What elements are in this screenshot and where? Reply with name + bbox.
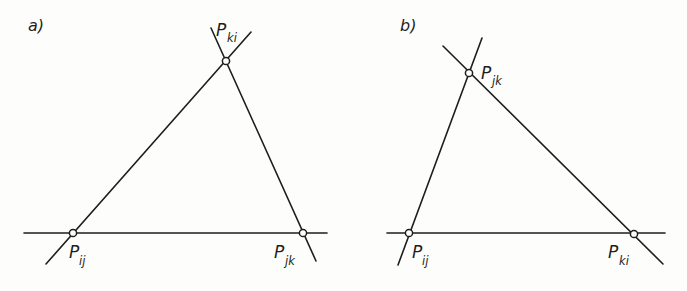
label-pki-b: P ki (608, 242, 630, 268)
panel-b: b) P jk P ij P ki (387, 16, 665, 268)
label-pjk-a: P jk (274, 242, 296, 268)
panel-b-label: b) (400, 16, 416, 35)
point-pij-a (69, 229, 76, 236)
svg-text:jk: jk (283, 254, 296, 268)
point-pjk-a (299, 229, 306, 236)
line-left-a (46, 32, 251, 264)
svg-text:ki: ki (619, 254, 630, 268)
svg-text:jk: jk (490, 74, 503, 88)
svg-text:P: P (608, 242, 619, 262)
triangle-diagram: a) P ki P ij P jk b) (0, 0, 687, 291)
svg-text:ij: ij (422, 254, 429, 268)
svg-text:ij: ij (79, 254, 86, 268)
svg-text:P: P (216, 20, 227, 40)
point-pki-b (630, 230, 637, 237)
point-pjk-b (465, 69, 472, 76)
point-pij-b (405, 229, 412, 236)
svg-text:P: P (481, 63, 492, 83)
label-pjk-b: P jk (481, 63, 503, 88)
label-pij-a: P ij (69, 242, 86, 268)
svg-text:ki: ki (227, 31, 238, 45)
label-pki-a: P ki (216, 20, 238, 45)
panel-a-label: a) (28, 16, 44, 35)
label-pij-b: P ij (412, 242, 429, 268)
svg-text:P: P (274, 242, 285, 262)
panel-a: a) P ki P ij P jk (24, 16, 327, 268)
line-diagonal-b (443, 46, 663, 264)
point-pki-a (222, 57, 229, 64)
